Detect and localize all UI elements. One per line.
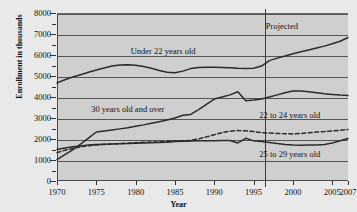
y-tick-minor — [52, 87, 56, 88]
y-tick-minor — [52, 66, 56, 67]
x-tick-label: 1975 — [76, 187, 116, 197]
series-line-under-22-years-old — [57, 38, 348, 83]
x-tick-label: 2007 — [328, 187, 357, 197]
annotation-label: Projected — [266, 21, 298, 31]
y-tick-minor — [52, 108, 56, 109]
annotation-label: 30 years old and over — [91, 104, 164, 114]
x-tick-label: 1985 — [155, 187, 195, 197]
y-tick-minor — [52, 24, 56, 25]
y-tick-label: 2000 — [11, 135, 51, 143]
annotation-label: 22 to 24 years old — [259, 110, 320, 120]
y-tick-label: 4000 — [11, 93, 51, 101]
x-tick-label: 1990 — [194, 187, 234, 197]
y-tick-label: 0 — [11, 177, 51, 185]
y-tick-label: 8000 — [11, 9, 51, 17]
x-tick-label: 1980 — [116, 187, 156, 197]
enrollment-line-chart: Enrollment in thousands 0100020003000400… — [0, 0, 357, 212]
annotation-label: Under 22 years old — [131, 46, 196, 56]
x-tick — [348, 181, 349, 185]
y-tick-label: 7000 — [11, 30, 51, 38]
x-tick-label: 1970 — [37, 187, 77, 197]
y-tick-label: 5000 — [11, 72, 51, 80]
y-tick-minor — [52, 129, 56, 130]
x-axis-title: Year — [0, 200, 357, 209]
y-tick-minor — [52, 150, 56, 151]
y-tick-label: 6000 — [11, 51, 51, 59]
y-tick-label: 1000 — [11, 156, 51, 164]
series-line-25-to-29-years-old — [57, 138, 348, 149]
annotation-label: 25 to 29 years old — [259, 149, 320, 159]
x-tick-label: 1995 — [234, 187, 274, 197]
y-tick-minor — [52, 45, 56, 46]
plot-area: Under 22 years oldProjected30 years old … — [57, 13, 348, 181]
x-tick-label: 2000 — [273, 187, 313, 197]
y-tick-minor — [52, 171, 56, 172]
y-tick-label: 3000 — [11, 114, 51, 122]
